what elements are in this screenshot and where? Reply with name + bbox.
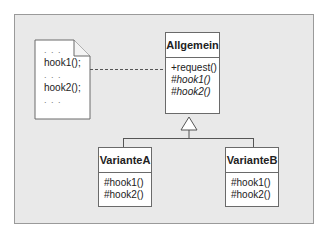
operation-hook1: #hook1() [171,74,219,86]
operation-hook2: #hook2() [231,189,278,201]
note-line-hook2: hook2(); [44,82,81,95]
class-operations: #hook1() #hook2() [99,173,151,201]
class-operations: +request() #hook1() #hook2() [166,58,219,98]
operation-request: +request() [171,62,219,74]
class-variante-a: VarianteA #hook1() #hook2() [98,147,152,207]
note-line-ellipsis: . . . [44,69,81,82]
note-code: . . . hook1(); . . . hook2(); . . . [44,44,81,107]
class-allgemein: Allgemein +request() #hook1() #hook2() [165,32,220,114]
note-line-hook1: hook1(); [44,57,81,70]
class-name: Allgemein [166,33,219,58]
class-name: VarianteB [226,148,278,173]
operation-hook2: #hook2() [171,86,219,98]
note-line-ellipsis: . . . [44,94,81,107]
class-variante-b: VarianteB #hook1() #hook2() [225,147,279,207]
operation-hook2: #hook2() [104,189,151,201]
operation-hook1: #hook1() [231,177,278,189]
note-line-ellipsis: . . . [44,44,81,57]
class-name: VarianteA [99,148,151,173]
generalization-arrow [181,117,197,130]
operation-hook1: #hook1() [104,177,151,189]
class-operations: #hook1() #hook2() [226,173,278,201]
